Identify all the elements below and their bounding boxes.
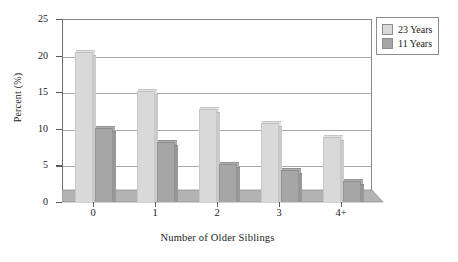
bar-11-years-cat-4plus bbox=[343, 182, 359, 202]
x-axis-tick-label: 2 bbox=[197, 207, 237, 218]
bar-23-years-cat-4plus bbox=[323, 138, 339, 202]
bar-23-years-cat-0 bbox=[75, 53, 91, 202]
legend-item: 23 Years bbox=[382, 22, 432, 36]
y-axis-tick-label: 10 bbox=[14, 123, 48, 134]
legend-swatch-11-years bbox=[382, 38, 393, 49]
bar-front-face bbox=[281, 170, 299, 202]
bar-11-years-cat-0 bbox=[95, 129, 111, 202]
bar-front-face bbox=[199, 109, 217, 202]
bar-23-years-cat-2 bbox=[199, 110, 215, 202]
legend-label-23-years: 23 Years bbox=[398, 24, 432, 35]
y-axis-tick-label: 25 bbox=[14, 13, 48, 24]
bar-23-years-cat-3 bbox=[261, 124, 277, 202]
x-axis-tick-mark bbox=[341, 202, 342, 207]
bar-front-face bbox=[75, 52, 93, 202]
bar-11-years-cat-2 bbox=[219, 165, 235, 202]
bar-front-face bbox=[261, 123, 279, 202]
x-axis-tick-label: 3 bbox=[259, 207, 299, 218]
y-axis-tick-label: 15 bbox=[14, 86, 48, 97]
bar-23-years-cat-1 bbox=[137, 92, 153, 202]
x-axis-tick-mark bbox=[217, 202, 218, 207]
bar-front-face bbox=[219, 164, 237, 202]
legend-item: 11 Years bbox=[382, 36, 432, 50]
y-axis-tick-label: 5 bbox=[14, 159, 48, 170]
y-axis-tick-label: 0 bbox=[14, 196, 48, 207]
y-axis-tick-mark bbox=[56, 202, 62, 203]
bar-front-face bbox=[343, 181, 361, 202]
x-axis-tick-mark bbox=[93, 202, 94, 207]
legend: 23 Years 11 Years bbox=[376, 17, 439, 55]
x-axis-tick-label: 0 bbox=[73, 207, 113, 218]
bar-chart-figure: Percent (%) 0510152025 01234+ Number of … bbox=[0, 0, 458, 262]
x-axis-tick-label: 1 bbox=[135, 207, 175, 218]
y-axis-tick-label: 20 bbox=[14, 50, 48, 61]
bar-11-years-cat-1 bbox=[157, 143, 173, 202]
bar-front-face bbox=[95, 128, 113, 202]
bar-front-face bbox=[157, 142, 175, 202]
x-axis-title: Number of Older Siblings bbox=[60, 232, 375, 243]
bar-11-years-cat-3 bbox=[281, 171, 297, 202]
bar-series-group bbox=[62, 19, 372, 202]
x-axis-tick-mark bbox=[279, 202, 280, 207]
bar-front-face bbox=[137, 91, 155, 202]
bar-front-face bbox=[323, 137, 341, 202]
legend-label-11-years: 11 Years bbox=[398, 38, 432, 49]
legend-swatch-23-years bbox=[382, 24, 393, 35]
x-axis-tick-mark bbox=[155, 202, 156, 207]
x-axis-tick-label: 4+ bbox=[321, 207, 361, 218]
